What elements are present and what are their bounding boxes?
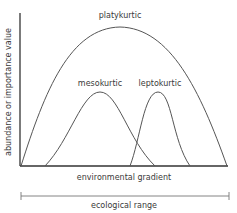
leptokurtic-label: leptokurtic: [139, 79, 182, 88]
mesokurtic-curve: [45, 92, 155, 166]
mesokurtic-label: mesokurtic: [78, 79, 122, 88]
range-label: ecological range: [91, 201, 157, 210]
leptokurtic-curve: [130, 92, 190, 166]
y-axis-label: abundance or importance value: [4, 28, 13, 156]
platykurtic-label: platykurtic: [99, 11, 142, 20]
kurtosis-diagram: platykurtic mesokurtic leptokurtic abund…: [0, 0, 237, 213]
x-axis-label: environmental gradient: [77, 173, 171, 182]
platykurtic-curve: [21, 27, 227, 166]
